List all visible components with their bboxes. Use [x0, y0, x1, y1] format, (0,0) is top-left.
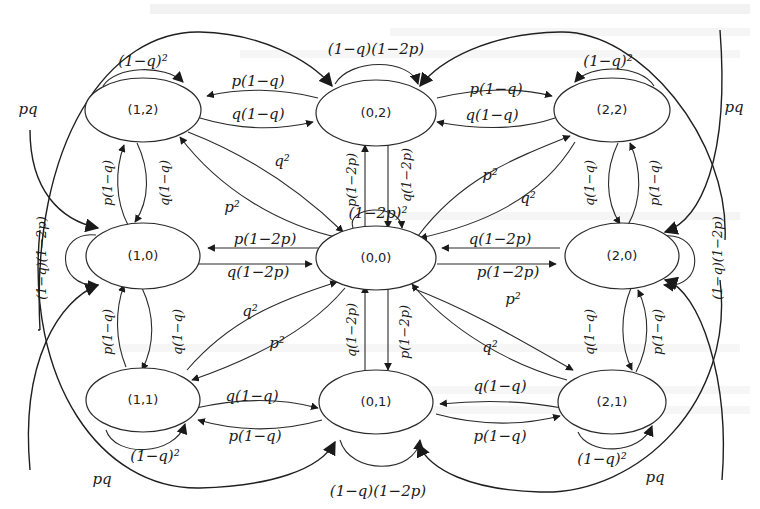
node-2-0: (2,0): [565, 223, 679, 289]
node-1-2: (1,2): [85, 78, 201, 142]
label-e00-12-p2: p²: [224, 198, 240, 216]
label-loop-01: (1−q)(1−2p): [330, 482, 427, 500]
node-label: (2,0): [607, 248, 638, 263]
label-e21-20: q(1−q): [582, 309, 597, 355]
label-loop-21: (1−q)²: [577, 450, 626, 468]
node-label: (0,0): [361, 250, 392, 265]
label-pq-top-left: pq: [18, 100, 37, 118]
node-label: (0,2): [361, 105, 392, 120]
node-label: (1,2): [128, 102, 159, 117]
label-e21-01: q(1−q): [473, 377, 526, 395]
label-e20-22: p(1−q): [647, 160, 662, 206]
node-0-1: (0,1): [319, 370, 433, 434]
label-loop-10: (1−q)(1−2p): [34, 216, 49, 300]
state-transition-diagram: (1,2) (0,2) (2,2) (1,0) (0,0) (2,0) (1,1…: [0, 0, 760, 509]
label-e01-11: p(1−q): [228, 427, 281, 445]
node-1-1: (1,1): [86, 368, 200, 432]
node-0-0: (0,0): [316, 226, 436, 290]
node-label: (1,0): [128, 248, 159, 263]
label-e00-21-p2: p²: [505, 290, 521, 308]
label-pq-bottom-left: pq: [92, 470, 111, 488]
label-pq-bottom-right: pq: [645, 468, 664, 486]
edge-outer-to-10-top: [30, 130, 98, 228]
node-label: (0,1): [361, 394, 392, 409]
node-label: (1,1): [128, 392, 159, 407]
label-e20-21: p(1−q): [650, 309, 665, 355]
label-e00-11-q2: q²: [242, 302, 258, 320]
edge-pq-top-right: [420, 32, 725, 240]
label-pq-top-right: pq: [724, 98, 743, 116]
node-label: (2,2): [597, 102, 628, 117]
label-e00-02: p(1−2p): [344, 153, 359, 207]
label-e10-12: p(1−q): [100, 160, 115, 206]
node-0-2: (0,2): [316, 80, 436, 146]
label-e02-12: p(1−q): [231, 72, 284, 90]
label-e00-22-q2: q²: [520, 189, 536, 207]
edge-pq-top-left: [39, 32, 332, 330]
label-loop-12: (1−q)²: [118, 52, 167, 70]
label-e00-20: p(1−2p): [477, 263, 540, 281]
label-e10-00: q(1−2p): [227, 263, 290, 281]
label-e01-21: p(1−q): [473, 427, 526, 445]
node-2-2: (2,2): [554, 78, 670, 142]
label-e11-01: q(1−q): [225, 387, 278, 405]
label-e00-12-q2: q²: [274, 152, 290, 170]
label-loop-02: (1−q)(1−2p): [328, 40, 425, 58]
label-e11-10: q(1−q): [170, 309, 185, 355]
label-e00-21-q2: q²: [482, 338, 498, 356]
label-loop-22: (1−q)²: [583, 52, 632, 70]
loop-01: [340, 440, 420, 466]
label-e00-01: p(1−2p): [397, 305, 412, 359]
node-label: (2,1): [597, 394, 628, 409]
label-e12-02: q(1−q): [231, 105, 284, 123]
label-e00-11-p2: p²: [269, 334, 285, 352]
label-e02-00: q(1−2p): [399, 148, 414, 202]
edge-outer-to-20-bottom: [665, 280, 723, 480]
label-e10-11: p(1−q): [100, 309, 115, 355]
label-loop-20: (1−q)(1−2p): [710, 216, 725, 300]
label-e01-00: q(1−2p): [344, 303, 359, 357]
label-e12-10: q(1−q): [157, 160, 172, 206]
label-e00-22-p2: p²: [482, 166, 498, 184]
label-loop-11: (1−q)²: [130, 447, 179, 465]
label-e22-02: q(1−q): [465, 106, 518, 124]
node-2-1: (2,1): [558, 370, 666, 434]
label-e00-10: p(1−2p): [234, 230, 297, 248]
edge-outer-to-20-top: [665, 30, 722, 232]
label-e02-22: p(1−q): [469, 80, 522, 98]
node-1-0: (1,0): [86, 223, 200, 289]
label-e22-20: q(1−q): [582, 160, 597, 206]
label-e20-00: q(1−2p): [469, 230, 532, 248]
